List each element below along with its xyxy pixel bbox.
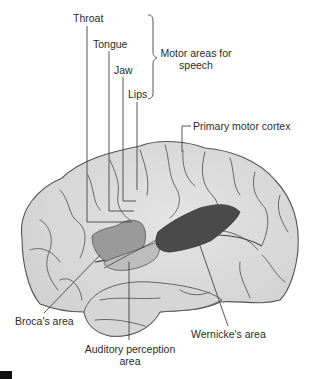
motor-areas-bracket <box>148 15 157 99</box>
jaw-label: Jaw <box>114 64 133 76</box>
wernickes-area-label: Wernicke's area <box>191 328 266 340</box>
throat-label: Throat <box>73 12 103 24</box>
auditory-perception-label: Auditory perception area <box>78 343 182 367</box>
motor-areas-label-line1: Motor areas for <box>158 47 234 59</box>
lips-label: Lips <box>128 88 147 100</box>
tongue-label: Tongue <box>93 38 127 50</box>
corner-mark <box>0 371 12 379</box>
motor-areas-label-line2: speech <box>158 59 234 71</box>
auditory-label-line2: area <box>78 355 182 367</box>
auditory-label-line1: Auditory perception <box>78 343 182 355</box>
primary-motor-cortex-label: Primary motor cortex <box>193 120 290 132</box>
brocas-area-label: Broca's area <box>15 315 74 327</box>
motor-areas-label: Motor areas for speech <box>158 47 234 71</box>
